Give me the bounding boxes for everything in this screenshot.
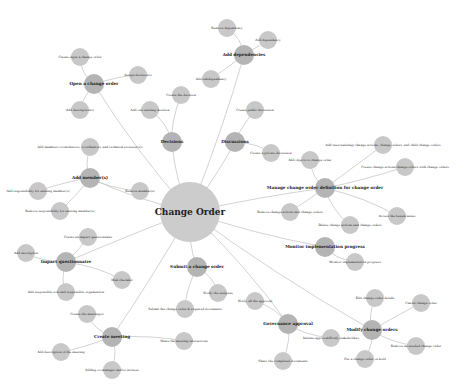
node-label: Impact questionnaire bbox=[41, 259, 92, 264]
node-label: Add member(s) bbox=[71, 175, 108, 180]
leaf-node[interactable]: Add subdependency bbox=[195, 70, 227, 88]
leaf-node[interactable]: Cancel change order bbox=[405, 294, 437, 312]
hub-node[interactable]: Add member(s) bbox=[71, 168, 108, 188]
node-label: Mail checklist bbox=[111, 278, 133, 282]
hub-node[interactable]: Open a change order bbox=[69, 74, 119, 94]
leaf-node[interactable]: Remove responsibility for existing membe… bbox=[25, 202, 94, 220]
node-label: Monitor implementation progress bbox=[329, 260, 381, 264]
node-label: Governance approval bbox=[263, 321, 313, 326]
node-label: Create input a change order bbox=[58, 55, 102, 59]
node-label: Cancel change order bbox=[405, 301, 437, 305]
node-label: Add subdependency bbox=[195, 77, 227, 81]
node-label: Assign decision(s) bbox=[123, 73, 151, 77]
node-label: Open a change order bbox=[69, 81, 119, 86]
node-label: Add members (contributors, coordinators,… bbox=[36, 145, 142, 149]
leaf-node[interactable]: Assign decision(s) bbox=[123, 66, 151, 84]
node-label: Remove member(s) bbox=[125, 189, 155, 193]
leaf-node[interactable]: Mail checklist bbox=[111, 271, 133, 289]
node-label: Modify change orders bbox=[346, 327, 398, 332]
leaf-node[interactable]: Create input a change order bbox=[58, 48, 102, 66]
node-label: Remove un-needed change order bbox=[391, 344, 442, 348]
leaf-node[interactable]: Notify the assignee bbox=[203, 284, 233, 302]
leaf-node[interactable]: Create public discussion bbox=[236, 101, 273, 119]
leaf-node[interactable]: Add objects to change order bbox=[287, 151, 332, 169]
leaf-node[interactable]: Access the beneficiaries bbox=[378, 207, 416, 225]
node-label: Submit the change order & required docum… bbox=[148, 307, 222, 311]
leaf-node[interactable]: Add responsible role and responsible org… bbox=[27, 283, 105, 301]
node-label: Add objects to change order bbox=[287, 158, 332, 162]
node-label: Put a change order on hold bbox=[344, 357, 386, 361]
node-label: Create public discussion bbox=[236, 108, 273, 112]
node-label: Share the meeting interactions bbox=[160, 339, 208, 343]
node-label: Create change actions/change orders with… bbox=[361, 165, 449, 169]
edge bbox=[325, 188, 397, 216]
leaf-node[interactable]: Share the meeting interactions bbox=[160, 332, 208, 350]
node-label: Remove dependency bbox=[211, 26, 243, 30]
node-label: Submit a change order bbox=[170, 264, 225, 269]
node-label: Initiate approval/Notify stakeholders bbox=[303, 336, 360, 340]
leaf-node[interactable]: Add description bbox=[13, 244, 38, 262]
node-label: Add (new/existing) change actions, chang… bbox=[324, 143, 440, 147]
leaf-node[interactable]: Create a private discussion bbox=[250, 144, 292, 162]
leaf-node[interactable]: Put a change order on hold bbox=[344, 350, 386, 368]
node-label: Create an impact questionnaire bbox=[64, 235, 112, 239]
leaf-node[interactable]: Remove dependency bbox=[211, 19, 243, 37]
node-label: Delete change actions and change orders bbox=[318, 223, 382, 227]
node-label: Create meeting bbox=[94, 334, 130, 339]
hub-node[interactable]: Governance approval bbox=[263, 314, 313, 334]
leaf-node[interactable]: Create the meeting(s) bbox=[70, 305, 103, 323]
node-label: Discussions bbox=[221, 139, 249, 144]
leaf-node[interactable]: Delete change actions and change orders bbox=[318, 216, 382, 234]
hub-node[interactable]: Add dependencies bbox=[222, 45, 266, 65]
leaf-node[interactable]: Remove change actions and change orders bbox=[257, 203, 323, 221]
hub-node[interactable]: Impact questionnaire bbox=[41, 252, 92, 272]
node-label: Add description bbox=[13, 251, 38, 255]
leaf-node[interactable]: Add members (contributors, coordinators,… bbox=[36, 138, 142, 156]
node-label: Create a private discussion bbox=[250, 151, 292, 155]
leaf-node[interactable]: Adding co-manager and/or invitees bbox=[84, 361, 139, 379]
node-label: Add description of the meeting bbox=[36, 350, 84, 354]
leaf-node[interactable]: Remove member(s) bbox=[125, 182, 155, 200]
node-label: Remove responsibility for existing membe… bbox=[25, 209, 94, 213]
node-label: Manage change order definition for chang… bbox=[267, 185, 384, 190]
leaf-node[interactable]: Add one existing decision bbox=[130, 101, 170, 119]
node-label: Create the meeting(s) bbox=[70, 312, 103, 316]
node-label: Add description(s) bbox=[65, 108, 94, 112]
node-label: Monitor implementation progress bbox=[285, 244, 365, 249]
leaf-node[interactable]: Edit change order details bbox=[356, 289, 395, 307]
leaf-node[interactable]: Create change actions/change orders with… bbox=[361, 158, 449, 176]
node-label: Create the decision bbox=[166, 93, 196, 97]
leaf-node[interactable]: Notify all the approval bbox=[238, 292, 272, 310]
leaf-node[interactable]: Share the completed documents bbox=[258, 352, 308, 370]
node-label: Change Order bbox=[155, 207, 226, 217]
leaf-node[interactable]: Create the decision bbox=[166, 86, 196, 104]
node-label: Share the completed documents bbox=[258, 359, 308, 363]
node-label: Add dependency bbox=[254, 38, 281, 42]
node-label: Add responsible role and responsible org… bbox=[27, 290, 105, 294]
leaf-node[interactable]: Add (new/existing) change actions, chang… bbox=[324, 136, 440, 154]
node-label: Add responsibility for existing member(s… bbox=[5, 189, 69, 193]
node-label: Decisions bbox=[161, 139, 184, 144]
leaf-node[interactable]: Create an impact questionnaire bbox=[64, 228, 112, 246]
node-label: Add dependencies bbox=[222, 52, 266, 57]
node-label: Remove change actions and change orders bbox=[257, 210, 323, 214]
node-label: Notify the assignee bbox=[203, 291, 233, 295]
mind-map-diagram: Create input a change orderAssign decisi… bbox=[0, 0, 463, 385]
leaf-node[interactable]: Monitor implementation progress bbox=[329, 253, 381, 271]
node-label: Adding co-manager and/or invitees bbox=[84, 368, 139, 372]
hub-node[interactable]: Decisions bbox=[161, 132, 184, 152]
hub-node[interactable]: Manage change order definition for chang… bbox=[267, 178, 384, 198]
leaf-node[interactable]: Add description of the meeting bbox=[36, 343, 84, 361]
hub-node[interactable]: Discussions bbox=[221, 132, 249, 152]
leaf-node[interactable]: Submit the change order & required docum… bbox=[148, 300, 222, 318]
node-label: Edit change order details bbox=[356, 296, 395, 300]
node-label: Access the beneficiaries bbox=[378, 214, 416, 218]
root-node[interactable]: Change Order bbox=[155, 182, 226, 242]
leaf-node[interactable]: Add description(s) bbox=[65, 101, 94, 119]
leaf-node[interactable]: Remove un-needed change order bbox=[391, 337, 442, 355]
node-label: Add one existing decision bbox=[130, 108, 170, 112]
node-label: Notify all the approval bbox=[238, 299, 272, 303]
hub-node[interactable]: Submit a change order bbox=[170, 257, 225, 277]
